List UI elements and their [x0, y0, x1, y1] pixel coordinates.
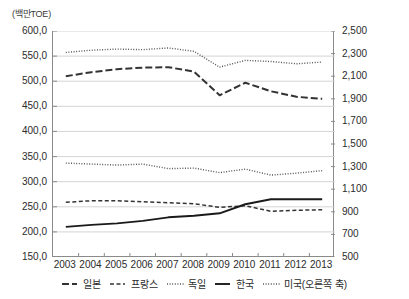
legend-line-swatch	[110, 280, 128, 288]
x-axis-tick-label: 2013	[304, 259, 338, 270]
legend-line-swatch	[62, 280, 80, 288]
y-axis-right-tick-label: 2,100	[342, 70, 386, 81]
y-axis-left-tick-label: 300,0	[3, 176, 47, 187]
y-axis-left-tick-label: 400,0	[3, 125, 47, 136]
legend-item-label: 프랑스	[131, 276, 158, 291]
legend-item-label: 독일	[188, 276, 206, 291]
legend-line-swatch	[215, 280, 233, 288]
legend-item[interactable]: 한국	[215, 276, 254, 291]
y-axis-right-tick-label: 1,300	[342, 161, 386, 172]
y-axis-left-tick-label: 200,0	[3, 226, 47, 237]
line-chart: (백만TOE) 150,0200,0250,0300,0350,0400,045…	[0, 0, 409, 299]
legend-item[interactable]: 독일	[167, 276, 206, 291]
y-axis-left-tick-label: 550,0	[3, 50, 47, 61]
y-axis-right-tick-label: 500	[342, 251, 386, 262]
y-axis-left-tick-label: 350,0	[3, 151, 47, 162]
legend-item-label: 한국	[236, 276, 254, 291]
y-axis-left-tick-label: 500,0	[3, 75, 47, 86]
legend-item[interactable]: 프랑스	[110, 276, 158, 291]
legend-item-label: 일본	[83, 276, 101, 291]
series-line-0	[66, 67, 322, 99]
y-axis-right-tick-label: 900	[342, 206, 386, 217]
y-axis-left-tick-label: 450,0	[3, 100, 47, 111]
y-axis-right-tick-label: 1,700	[342, 115, 386, 126]
axis-unit-caption: (백만TOE)	[12, 7, 51, 20]
legend-item-label: 미국(오른쪽 축)	[284, 276, 347, 291]
plot-area	[52, 31, 334, 257]
y-axis-right-tick-label: 1,900	[342, 93, 386, 104]
y-axis-right-tick-label: 2,300	[342, 48, 386, 59]
series-line-1	[66, 201, 322, 212]
chart-legend: 일본프랑스독일한국미국(오른쪽 축)	[0, 276, 409, 291]
series-line-3	[66, 199, 322, 227]
series-line-4	[66, 48, 322, 67]
legend-item[interactable]: 일본	[62, 276, 101, 291]
legend-item[interactable]: 미국(오른쪽 축)	[263, 276, 347, 291]
y-axis-right-tick-label: 1,100	[342, 183, 386, 194]
y-axis-left-tick-label: 150,0	[3, 251, 47, 262]
y-axis-right-tick-label: 2,500	[342, 25, 386, 36]
y-axis-right-tick-label: 1,500	[342, 138, 386, 149]
plot-svg	[53, 31, 335, 257]
y-axis-left-tick-label: 600,0	[3, 25, 47, 36]
y-axis-left-tick-label: 250,0	[3, 201, 47, 212]
series-line-2	[66, 163, 322, 175]
y-axis-right-tick-label: 700	[342, 228, 386, 239]
legend-line-swatch	[263, 280, 281, 288]
legend-line-swatch	[167, 280, 185, 288]
